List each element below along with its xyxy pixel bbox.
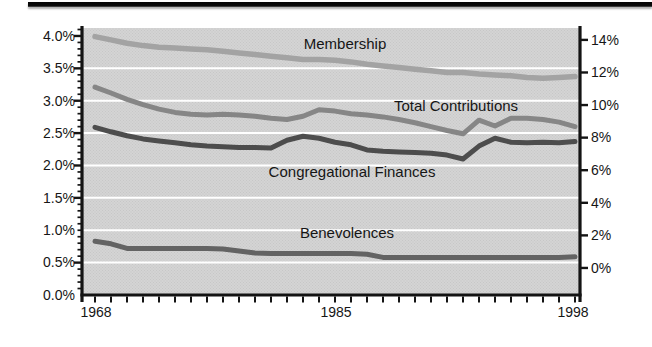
series-label-membership: Membership xyxy=(304,35,387,52)
right-axis-tick-label: 10% xyxy=(591,97,619,113)
series-label-benevolences: Benevolences xyxy=(300,224,394,241)
series-label-total-contributions: Total Contributions xyxy=(394,97,518,114)
right-axis-tick-label: 2% xyxy=(591,227,611,243)
left-axis-tick-label: 1.0% xyxy=(43,222,75,238)
x-axis-year-label: 1998 xyxy=(557,304,588,320)
x-axis-year-label: 1985 xyxy=(320,304,351,320)
left-axis-tick-label: 3.5% xyxy=(43,60,75,76)
left-axis-tick-label: 2.0% xyxy=(43,157,75,173)
right-axis-tick-label: 14% xyxy=(591,32,619,48)
right-axis-tick-label: 4% xyxy=(591,195,611,211)
left-axis-tick-label: 4.0% xyxy=(43,28,75,44)
figure-church-giving-chart: 0.0%0.5%1.0%1.5%2.0%2.5%3.0%3.5%4.0%0%2%… xyxy=(0,0,652,347)
right-axis-tick-label: 6% xyxy=(591,162,611,178)
right-axis-tick-label: 0% xyxy=(591,260,611,276)
series-label-congregational-finances: Congregational Finances xyxy=(269,163,436,180)
left-axis-tick-label: 3.0% xyxy=(43,93,75,109)
left-axis-tick-label: 1.5% xyxy=(43,190,75,206)
left-axis-tick-label: 0.5% xyxy=(43,254,75,270)
x-axis-year-label: 1968 xyxy=(80,304,111,320)
right-axis-tick-label: 8% xyxy=(591,129,611,145)
left-axis-tick-label: 2.5% xyxy=(43,125,75,141)
right-axis-tick-label: 12% xyxy=(591,64,619,80)
chart-canvas: 0.0%0.5%1.0%1.5%2.0%2.5%3.0%3.5%4.0%0%2%… xyxy=(0,0,652,347)
left-axis-tick-label: 0.0% xyxy=(43,287,75,303)
